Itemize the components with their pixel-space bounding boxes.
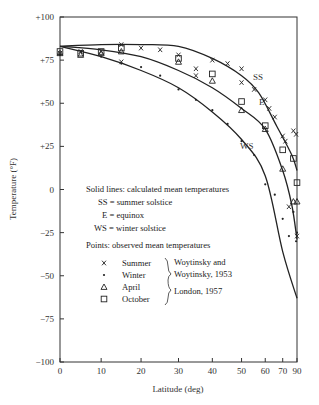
marker-summer-icon xyxy=(194,66,198,71)
legend-brace-1 xyxy=(165,258,171,280)
marker-winter-icon xyxy=(296,232,298,234)
legend-points: Points: observed mean temperatures Summe… xyxy=(86,240,232,305)
legend-summer: Summer xyxy=(122,258,151,268)
marker-summer-icon xyxy=(287,204,291,209)
y-tick-label: +100 xyxy=(35,12,54,22)
y-tick-label: +75 xyxy=(40,55,55,65)
marker-summer-icon xyxy=(226,61,230,66)
legend-solid-lines: Solid lines: calculated mean temperature… xyxy=(86,184,230,233)
points-heading: Points: observed mean temperatures xyxy=(86,240,211,250)
marker-october-icon xyxy=(239,99,245,105)
marker-winter-icon xyxy=(140,66,142,68)
marker-winter-icon xyxy=(253,154,255,156)
marker-summer-icon xyxy=(194,73,198,78)
marker-summer-icon xyxy=(177,53,181,58)
marker-april-icon xyxy=(98,50,104,55)
y-tick-label: −50 xyxy=(40,271,55,281)
marker-winter-icon xyxy=(211,109,213,111)
marker-summer-icon xyxy=(273,115,277,120)
marker-summer-icon xyxy=(102,261,106,266)
temperature-vs-latitude-chart: +100+75+50+250−25−50−75−100 010203040506… xyxy=(0,0,319,405)
y-tick-label: −100 xyxy=(35,357,54,367)
marker-summer-icon xyxy=(240,80,244,85)
x-tick-label: 90 xyxy=(293,366,303,376)
marker-summer-icon xyxy=(158,47,162,52)
y-axis-title: Temperature (°F) xyxy=(8,158,18,220)
marker-winter-icon xyxy=(195,99,197,101)
marker-april-icon xyxy=(78,52,84,57)
source-woytinsky-2: Woytinsky, 1953 xyxy=(174,269,232,279)
curve-label-ss: SS xyxy=(253,72,263,82)
y-tick-label: −75 xyxy=(40,314,55,324)
x-tick-label: 20 xyxy=(137,366,147,376)
x-tick-label: 30 xyxy=(174,366,184,376)
curve-label-ws: WS xyxy=(240,141,254,151)
marker-winter-icon xyxy=(295,240,297,242)
marker-winter-icon xyxy=(226,123,228,125)
x-tick-label: 70 xyxy=(278,366,288,376)
x-axis-ticks: 01020304050607090 xyxy=(58,358,302,376)
y-tick-label: −25 xyxy=(40,228,55,238)
def-e: E = equinox xyxy=(102,210,145,220)
legend-brace-2 xyxy=(165,280,171,305)
source-london: London, 1957 xyxy=(174,286,223,296)
marker-winter-icon xyxy=(264,183,266,185)
x-axis-title: Latitude (deg) xyxy=(152,384,203,394)
y-tick-label: +50 xyxy=(40,98,55,108)
marker-summer-icon xyxy=(139,46,143,51)
marker-summer-icon xyxy=(240,66,244,71)
curve-label-e: E xyxy=(259,97,265,107)
x-tick-label: 0 xyxy=(58,366,63,376)
def-ss: SS = summer solstice xyxy=(98,197,172,207)
marker-october-icon xyxy=(280,147,286,153)
legend-markers xyxy=(101,261,107,302)
curve-ss xyxy=(60,44,297,170)
y-tick-label: +25 xyxy=(40,141,55,151)
marker-winter-icon xyxy=(274,194,276,196)
marker-april-icon xyxy=(209,78,215,83)
x-tick-label: 50 xyxy=(237,366,247,376)
source-woytinsky-1: Woytinsky and xyxy=(174,257,226,267)
observed-points xyxy=(57,42,300,242)
marker-winter-icon xyxy=(282,218,284,220)
def-ws: WS = winter solstice xyxy=(94,223,166,233)
marker-october-icon xyxy=(101,296,107,302)
marker-winter-icon xyxy=(159,75,161,77)
legend-april: April xyxy=(122,282,141,292)
solid-lines-heading: Solid lines: calculated mean temperature… xyxy=(86,184,230,194)
marker-winter-icon xyxy=(288,235,290,237)
y-tick-label: 0 xyxy=(50,185,55,195)
x-tick-label: 60 xyxy=(261,366,271,376)
legend-october: October xyxy=(122,294,150,304)
marker-october-icon xyxy=(210,71,216,77)
marker-winter-icon xyxy=(177,88,179,90)
legend-winter: Winter xyxy=(122,270,146,280)
marker-winter-icon xyxy=(103,274,105,276)
marker-winter-icon xyxy=(120,62,122,64)
x-tick-label: 10 xyxy=(97,366,107,376)
marker-april-icon xyxy=(101,284,107,289)
marker-winter-icon xyxy=(292,211,294,213)
x-tick-label: 40 xyxy=(208,366,218,376)
